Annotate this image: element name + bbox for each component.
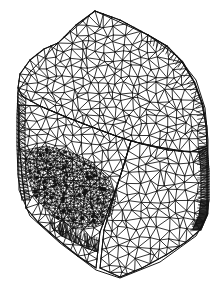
mesh-figure — [0, 0, 224, 292]
figure-background — [0, 0, 224, 292]
mesh-canvas — [0, 0, 224, 292]
